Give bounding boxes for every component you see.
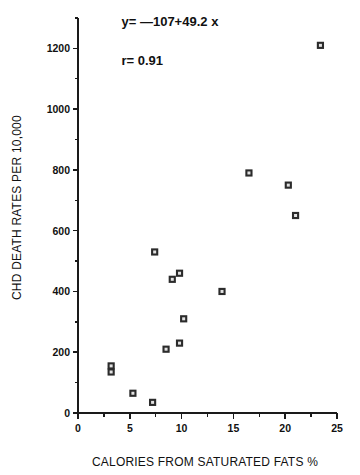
x-tick-label: 10: [176, 422, 188, 434]
y-tick-label: 400: [52, 285, 70, 297]
marker-center: [151, 401, 154, 404]
marker-center: [247, 171, 250, 174]
x-tick-label: 5: [127, 422, 133, 434]
figure-background: [0, 0, 360, 475]
marker-center: [287, 184, 290, 187]
marker-center: [110, 364, 113, 367]
data-point: [162, 346, 169, 353]
y-tick-label: 600: [52, 225, 70, 237]
x-tick-label: 0: [75, 422, 81, 434]
data-point: [180, 315, 187, 322]
marker-center: [221, 290, 224, 293]
marker-center: [110, 370, 113, 373]
marker-center: [319, 44, 322, 47]
marker-center: [178, 342, 181, 345]
regression-equation: y= —107+49.2 x: [122, 14, 220, 29]
y-tick-label: 1000: [47, 103, 71, 115]
data-point: [317, 42, 324, 49]
data-point: [129, 390, 136, 397]
data-point: [149, 399, 156, 406]
correlation-coefficient: r= 0.91: [122, 53, 164, 68]
y-axis-title: CHD DEATH RATES PER 10,000: [10, 115, 24, 300]
data-point: [169, 276, 176, 283]
data-point: [285, 182, 292, 189]
y-tick-label: 0: [64, 407, 70, 419]
data-point: [176, 340, 183, 347]
data-point: [176, 270, 183, 277]
data-point: [108, 368, 115, 375]
scatter-plot-figure: 020040060080010001200 0510152025 y= —107…: [0, 0, 360, 475]
marker-center: [182, 317, 185, 320]
x-tick-label: 20: [279, 422, 291, 434]
x-axis-title: CALORIES FROM SATURATED FATS %: [92, 455, 318, 469]
data-point: [245, 169, 252, 176]
data-point: [292, 212, 299, 219]
marker-center: [165, 348, 168, 351]
marker-center: [294, 214, 297, 217]
data-point: [151, 248, 158, 255]
marker-center: [131, 392, 134, 395]
x-tick-label: 15: [228, 422, 240, 434]
marker-center: [171, 278, 174, 281]
x-tick-label: 25: [331, 422, 343, 434]
marker-center: [178, 272, 181, 275]
y-tick-label: 1200: [47, 42, 71, 54]
marker-center: [153, 250, 156, 253]
y-tick-label: 200: [52, 346, 70, 358]
y-tick-label: 800: [52, 164, 70, 176]
data-point: [218, 288, 225, 295]
